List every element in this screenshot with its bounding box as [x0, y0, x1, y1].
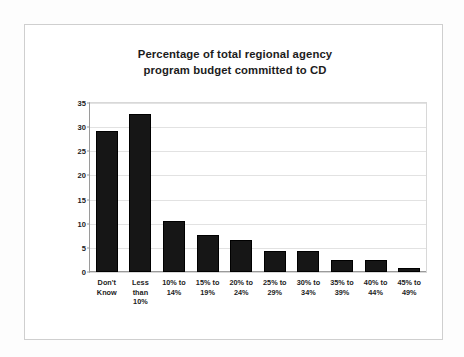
x-tick-label-line: 10% [120, 297, 160, 307]
y-tick-mark-5 [87, 247, 90, 248]
y-tick-mark-10 [87, 223, 90, 224]
y-tick-label-20: 20 [78, 171, 86, 180]
chart-page: Percentage of total regional agency prog… [0, 0, 464, 357]
bar [365, 260, 387, 272]
bar [398, 268, 420, 272]
y-tick-label-30: 30 [78, 123, 86, 132]
bar [197, 235, 219, 272]
bar [297, 251, 319, 272]
chart-title-line-1: Percentage of total regional agency [65, 47, 405, 63]
chart-title-line-2: program budget committed to CD [65, 63, 405, 79]
bar [264, 251, 286, 272]
bar [230, 240, 252, 272]
y-tick-label-35: 35 [78, 99, 86, 108]
bar [331, 260, 353, 272]
y-tick-label-10: 10 [78, 219, 86, 228]
y-tick-mark-35 [87, 103, 90, 104]
y-tick-mark-30 [87, 127, 90, 128]
y-tick-label-0: 0 [82, 268, 86, 277]
y-tick-mark-0 [87, 272, 90, 273]
y-tick-label-15: 15 [78, 195, 86, 204]
y-tick-mark-25 [87, 151, 90, 152]
y-tick-mark-20 [87, 175, 90, 176]
bar [163, 221, 185, 272]
y-tick-label-25: 25 [78, 147, 86, 156]
x-tick-label: 45% to49% [389, 278, 429, 297]
plot-area: Percentage of Agencies 05101520253035 Do… [89, 102, 427, 273]
bar [129, 114, 151, 272]
gridline-35 [90, 103, 426, 104]
chart-frame: Percentage of total regional agency prog… [24, 24, 443, 340]
y-tick-mark-15 [87, 199, 90, 200]
bar [96, 131, 118, 272]
chart-title: Percentage of total regional agency prog… [65, 47, 405, 78]
y-tick-label-5: 5 [82, 243, 86, 252]
x-tick-label-line: 49% [389, 288, 429, 298]
x-tick-label-line: 45% to [389, 278, 429, 288]
